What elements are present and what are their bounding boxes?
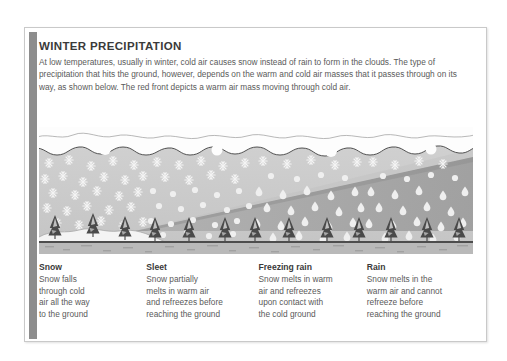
caption-line: Snow partially (146, 274, 258, 286)
intro-paragraph: At low temperatures, usually in winter, … (39, 56, 471, 93)
caption-line: refreeze before (367, 297, 479, 309)
caption-line: air and refreezes (259, 286, 367, 298)
page-title: WINTER PRECIPITATION (39, 40, 471, 52)
caption-line: to the ground (39, 309, 146, 321)
card-header: WINTER PRECIPITATION At low temperatures… (39, 40, 471, 93)
caption-line: air all the way (39, 297, 146, 309)
caption-line: reaching the ground (367, 309, 479, 321)
left-accent-bar (29, 32, 37, 339)
caption-line: the cold ground (259, 309, 367, 321)
caption-line: through cold (39, 286, 146, 298)
caption-body: Snow partially melts in warm air and ref… (146, 274, 258, 320)
caption-body: Snow melts in the warm air and cannot re… (367, 274, 479, 320)
caption-title: Rain (367, 262, 479, 272)
caption-row: Snow Snow falls through cold air all the… (39, 262, 479, 320)
precipitation-diagram (39, 127, 473, 254)
caption-body: Snow falls through cold air all the way … (39, 274, 146, 320)
caption-line: Snow melts in the (367, 274, 479, 286)
caption-line: melts in warm air (146, 286, 258, 298)
caption-title: Sleet (146, 262, 258, 272)
caption-line: upon contact with (259, 297, 367, 309)
caption-line: warm air and cannot (367, 286, 479, 298)
caption-column-snow: Snow Snow falls through cold air all the… (39, 262, 146, 320)
caption-title: Freezing rain (259, 262, 367, 272)
caption-line: and refreezes before (146, 297, 258, 309)
caption-line: reaching the ground (146, 309, 258, 321)
caption-title: Snow (39, 262, 146, 272)
caption-line: Snow melts in warm (259, 274, 367, 286)
winter-precipitation-card: WINTER PRECIPITATION At low temperatures… (24, 27, 487, 342)
caption-line: Snow falls (39, 274, 146, 286)
caption-column-freezing-rain: Freezing rain Snow melts in warm air and… (259, 262, 367, 320)
caption-column-rain: Rain Snow melts in the warm air and cann… (367, 262, 479, 320)
caption-body: Snow melts in warm air and refreezes upo… (259, 274, 367, 320)
caption-column-sleet: Sleet Snow partially melts in warm air a… (146, 262, 258, 320)
